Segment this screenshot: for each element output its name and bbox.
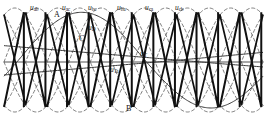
label-u-D: uD bbox=[88, 24, 95, 32]
label-u-ab: uab bbox=[30, 4, 38, 12]
subscript-u-T: T bbox=[144, 52, 147, 58]
subscript-u-bc: bc bbox=[92, 6, 97, 12]
subscript-u-Ta: Ta bbox=[114, 68, 119, 74]
label-point-A: A bbox=[54, 11, 60, 19]
label-u-bc: ubc bbox=[88, 4, 96, 12]
label-u-ac: uac bbox=[62, 4, 70, 12]
label-u-T: uT bbox=[140, 50, 147, 58]
label-u-ca: uca bbox=[145, 4, 153, 12]
label-u-ba: uba bbox=[117, 4, 125, 12]
label-u-cb: ucb bbox=[175, 4, 183, 12]
waveform-figure: uabuacubcubaucaucb uDuTuTa ACB bbox=[0, 0, 267, 118]
sawtooth-group bbox=[4, 12, 263, 107]
subscript-u-ab: ab bbox=[34, 6, 39, 12]
subscript-u-ba: ba bbox=[121, 6, 126, 12]
label-point-C: C bbox=[79, 35, 84, 43]
subscript-u-cb: cb bbox=[179, 6, 184, 12]
subscript-u-ac: ac bbox=[66, 6, 70, 12]
label-point-B: B bbox=[126, 105, 131, 113]
label-u-Ta: uTa bbox=[110, 66, 119, 74]
subscript-u-ca: ca bbox=[149, 6, 153, 12]
subscript-u-D: D bbox=[92, 26, 96, 32]
waveform-plot bbox=[0, 0, 267, 118]
